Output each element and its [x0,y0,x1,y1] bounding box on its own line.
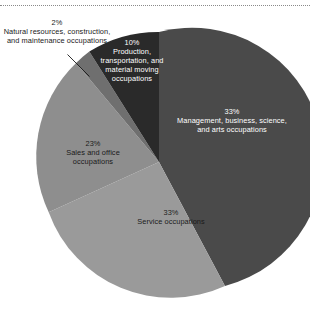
chart-canvas: 33% Management, business, science, and a… [0,0,310,310]
pie-chart [0,0,310,310]
